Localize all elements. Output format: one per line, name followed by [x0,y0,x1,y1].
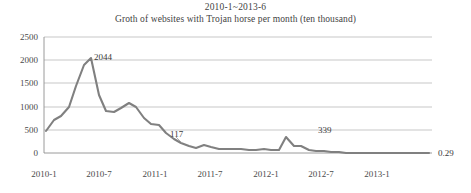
chart-container: 2010-1~2013-6 Groth of websites with Tro… [0,0,471,193]
plot-area [0,0,471,193]
annotation-117: 117 [170,130,183,139]
x-axis-tick-2011-1: 2011-1 [132,170,178,179]
annotation-2044: 2044 [94,53,112,62]
x-axis-tick-2012-7: 2012-7 [298,170,344,179]
x-axis-tick-2010-1: 2010-1 [21,170,67,179]
x-axis-tick-2010-7: 2010-7 [76,170,122,179]
annotation-339: 339 [318,126,332,135]
data-series-line [46,58,429,153]
x-axis-tick-2013-1: 2013-1 [354,170,400,179]
x-axis-tick-2011-7: 2011-7 [187,170,233,179]
x-axis-tick-2012-1: 2012-1 [243,170,289,179]
annotation-029: 0.29 [438,149,454,158]
